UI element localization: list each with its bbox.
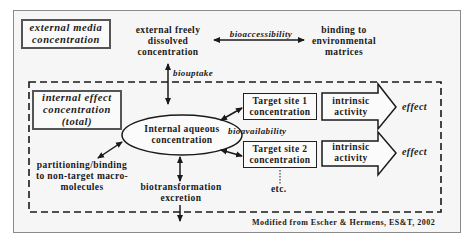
internal-box-line3: (total) [42,116,112,128]
target-site-2-line2: concentration [249,155,310,166]
arrow-to-site2 [221,150,242,156]
ext-dissolved-line3: concentration [128,47,208,58]
partitioning-line3: molecules [34,182,130,193]
external-media-box: external mediaconcentration [21,19,111,49]
effect-label-2: effect [402,146,427,157]
binding-environmental-label: binding to environmental matrices [308,25,380,58]
partitioning-line2: to non-target macro- [34,171,130,182]
bioaccessibility-label: bioaccessibility [226,29,296,40]
target-site-1-box: Target site 1concentration [243,93,317,120]
external-dissolved-label: external freely dissolved concentration [128,25,208,58]
biotransformation-label: biotransformation excretion [138,182,224,204]
internal-box-line2: concentration [42,104,112,116]
activity-2-line1: intrinsic [326,142,376,153]
ext-dissolved-line2: dissolved [128,36,208,47]
ext-dissolved-line1: external freely [128,25,208,36]
aqueous-line2: concentration [124,135,240,146]
external-box-line1: external media [30,22,103,34]
biouptake-label: biouptake [173,68,213,79]
bioavailability-label: bioavailability [228,126,287,137]
binding-line1: binding to [308,25,380,36]
activity-1-line1: intrinsic [326,96,376,107]
intrinsic-activity-2: intrinsic activity [326,142,376,164]
partitioning-line1: partitioning/binding [34,160,130,171]
internal-box-line1: internal effect [42,92,112,104]
target-site-1-line2: concentration [249,107,310,118]
source-credit: Modified from Escher & Hermens, ES&T, 20… [252,217,435,228]
activity-2-line2: activity [326,153,376,164]
effect-label-1: effect [402,101,427,112]
internal-aqueous-label: Internal aqueous concentration [124,124,240,146]
arrow-to-site1 [221,108,242,120]
partitioning-arrow [98,142,122,158]
aqueous-line1: Internal aqueous [124,124,240,135]
binding-line2: environmental [308,36,380,47]
activity-1-line2: activity [326,107,376,118]
external-box-line2: concentration [30,34,103,46]
etc-label: etc. [271,184,287,195]
target-site-2-line1: Target site 2 [249,144,310,155]
target-site-1-line1: Target site 1 [249,96,310,107]
partitioning-label: partitioning/binding to non-target macro… [34,160,130,193]
target-site-2-box: Target site 2concentration [243,141,317,168]
internal-effect-box: internal effectconcentration(total) [32,90,122,130]
biotransformation-line1: biotransformation [138,182,224,193]
intrinsic-activity-1: intrinsic activity [326,96,376,118]
biotransformation-line2: excretion [138,193,224,204]
binding-line3: matrices [308,47,380,58]
